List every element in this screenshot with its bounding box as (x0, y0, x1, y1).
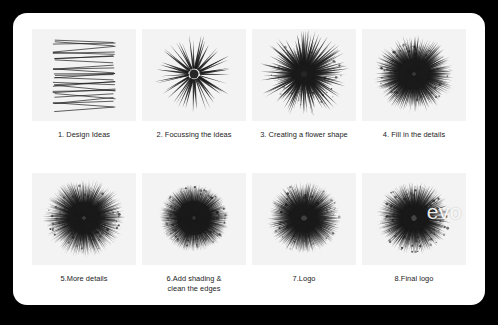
step-item-6[interactable]: 6.Add shading & clean the edges (142, 173, 246, 294)
step-item-7[interactable]: 7.Logo (252, 173, 356, 284)
step-caption-7: 7.Logo (252, 274, 356, 284)
step-item-5[interactable]: 5.More details (32, 173, 136, 284)
step-thumbnail-8[interactable]: evo (362, 173, 466, 265)
step-thumbnail-3[interactable] (252, 29, 356, 121)
step-caption-6: 6.Add shading & clean the edges (142, 274, 246, 294)
step-caption-8: 8.Final logo (362, 274, 466, 284)
step-item-4[interactable]: 4. Fill in the details (362, 29, 466, 140)
step-thumbnail-4[interactable] (362, 29, 466, 121)
cropped-bottom-text (0, 311, 498, 325)
step-thumbnail-5[interactable] (32, 173, 136, 265)
step-caption-line1: 4. Fill in the details (383, 130, 445, 139)
step-caption-2: 2. Focussing the ideas (142, 130, 246, 140)
step-thumbnail-7[interactable] (252, 173, 356, 265)
step-caption-1: 1. Design Ideas (32, 130, 136, 140)
process-card: 1. Design Ideas 2. Focussing the ideas 3… (13, 13, 485, 305)
step-item-2[interactable]: 2. Focussing the ideas (142, 29, 246, 140)
step-caption-line1: 2. Focussing the ideas (156, 130, 231, 139)
step-thumbnail-6[interactable] (142, 173, 246, 265)
step-caption-line1: 8.Final logo (395, 274, 434, 283)
step-thumbnail-1[interactable] (32, 29, 136, 121)
step-caption-4: 4. Fill in the details (362, 130, 466, 140)
step-item-1[interactable]: 1. Design Ideas (32, 29, 136, 140)
step-caption-3: 3. Creating a flower shape (252, 130, 356, 140)
step-caption-5: 5.More details (32, 274, 136, 284)
step-caption-line1: 5.More details (60, 274, 107, 283)
step-caption-line1: 1. Design Ideas (58, 130, 110, 139)
step-caption-line1: 3. Creating a flower shape (260, 130, 348, 139)
step-caption-line1: 7.Logo (293, 274, 316, 283)
step-caption-line2: clean the edges (142, 284, 246, 294)
steps-grid: 1. Design Ideas 2. Focussing the ideas 3… (13, 13, 485, 305)
step-thumbnail-2[interactable] (142, 29, 246, 121)
step-item-8[interactable]: evo 8.Final logo (362, 173, 466, 284)
step-caption-line1: 6.Add shading & (167, 274, 222, 283)
design-process-board: 1. Design Ideas 2. Focussing the ideas 3… (0, 0, 498, 325)
step-item-3[interactable]: 3. Creating a flower shape (252, 29, 356, 140)
